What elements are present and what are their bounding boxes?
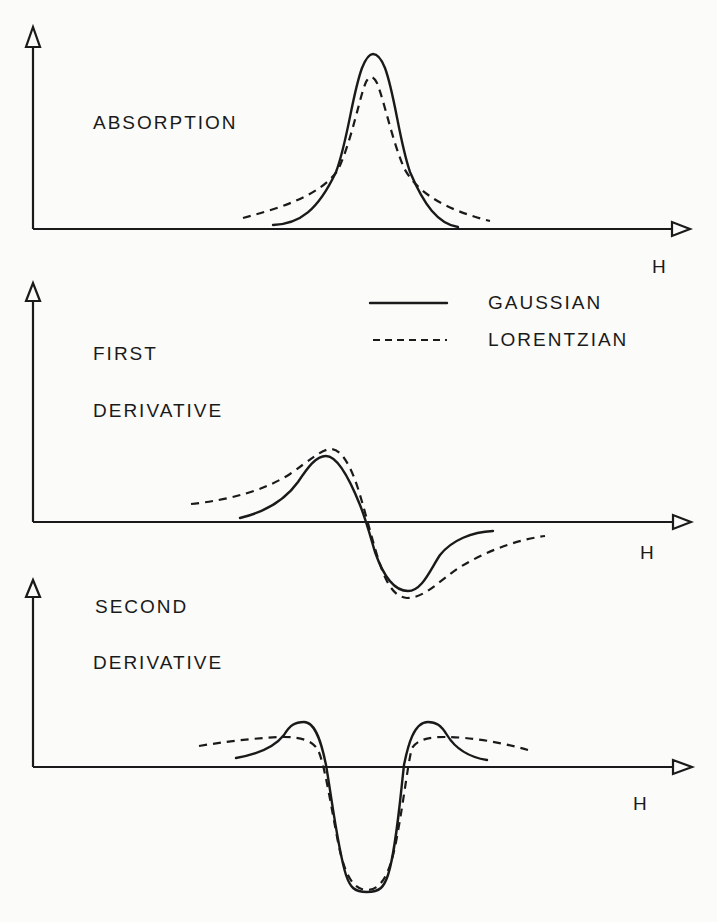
first-derivative-label-line1: FIRST <box>93 343 158 365</box>
legend-label-lorentzian: LORENTZIAN <box>488 329 628 351</box>
gaussian-second-derivative-curve <box>236 722 487 892</box>
first-derivative-label-line2: DERIVATIVE <box>93 400 223 422</box>
legend-label-gaussian: GAUSSIAN <box>488 292 602 314</box>
x-axis-label-h-2: H <box>640 542 654 564</box>
y-axis-arrow-icon <box>26 580 40 597</box>
x-axis-arrow-icon <box>673 515 691 529</box>
legend <box>370 303 447 340</box>
y-axis-arrow-icon <box>26 27 40 47</box>
gaussian-absorption-curve <box>273 54 458 227</box>
x-axis-label-h-3: H <box>633 793 647 815</box>
lorentzian-first-derivative-curve <box>191 449 545 598</box>
x-axis-arrow-icon <box>672 222 690 236</box>
x-axis-arrow-icon <box>673 760 692 774</box>
second-derivative-label-line1: SECOND <box>95 596 188 618</box>
lorentzian-absorption-curve <box>243 77 490 221</box>
absorption-label: ABSORPTION <box>93 112 238 134</box>
lineshape-diagram: .ax { stroke:#1a1a1a; stroke-width:2.2; … <box>0 0 717 922</box>
second-derivative-label-line2: DERIVATIVE <box>93 652 223 674</box>
lorentzian-second-derivative-curve <box>199 737 528 890</box>
y-axis-arrow-icon <box>26 283 40 301</box>
second-derivative-panel <box>26 580 692 892</box>
x-axis-label-h-1: H <box>652 256 666 278</box>
